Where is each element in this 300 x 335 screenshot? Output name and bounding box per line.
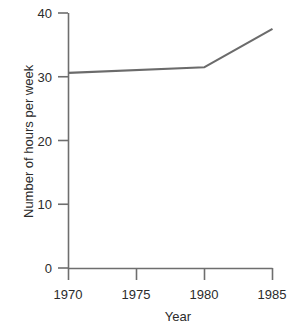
y-tick-label-0: 0 (24, 262, 52, 275)
y-tick-label-40: 40 (24, 7, 52, 20)
x-tick-label-1980: 1980 (190, 288, 219, 301)
chart-plot-area (0, 0, 300, 335)
x-tick-label-1970: 1970 (54, 288, 83, 301)
x-axis-title: Year (165, 310, 191, 324)
x-tick-label-1975: 1975 (122, 288, 151, 301)
y-axis-ticks (58, 13, 68, 268)
data-series-line (69, 29, 273, 73)
x-axis-ticks (69, 268, 273, 280)
x-tick-label-1985: 1985 (258, 288, 287, 301)
y-axis-title: Number of hours per week (22, 65, 36, 218)
line-chart: 40 30 20 10 0 1970 1975 1980 1985 Year N… (0, 0, 300, 335)
